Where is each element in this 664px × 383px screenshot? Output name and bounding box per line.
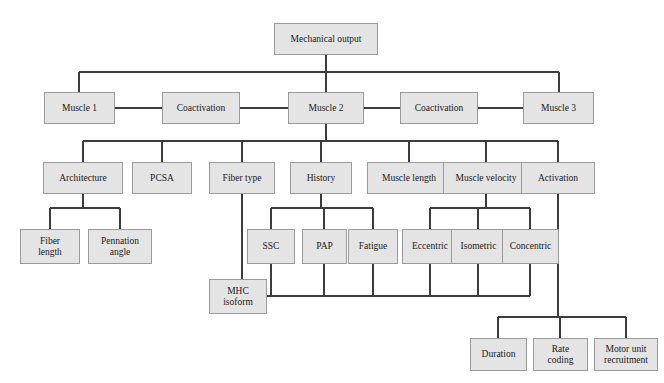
- node-label: Coactivation: [415, 103, 464, 114]
- node-fiber-length[interactable]: Fiberlength: [20, 229, 80, 264]
- node-label: SSC: [263, 241, 280, 252]
- node-muscle-length[interactable]: Muscle length: [367, 162, 451, 194]
- node-muscle-1[interactable]: Muscle 1: [44, 92, 115, 124]
- node-label: Fiber type: [223, 173, 262, 184]
- node-architecture[interactable]: Architecture: [43, 162, 123, 194]
- node-concentric[interactable]: Concentric: [502, 229, 559, 264]
- node-label: MHCisoform: [223, 286, 253, 308]
- node-motor-unit-recruitment[interactable]: Motor unitrecruitment: [594, 338, 658, 371]
- node-muscle-2[interactable]: Muscle 2: [288, 92, 364, 124]
- node-eccentric[interactable]: Eccentric: [402, 229, 458, 264]
- node-pennation-angle[interactable]: Pennationangle: [88, 229, 152, 264]
- node-label: History: [307, 173, 336, 184]
- node-label: Fatigue: [359, 241, 388, 252]
- node-label: Architecture: [59, 173, 106, 184]
- node-duration[interactable]: Duration: [470, 338, 527, 371]
- node-fiber-type[interactable]: Fiber type: [209, 162, 275, 194]
- node-coactivation-left[interactable]: Coactivation: [162, 92, 240, 124]
- node-isometric[interactable]: Isometric: [451, 229, 506, 264]
- node-label: PAP: [316, 241, 333, 252]
- node-label: Motor unitrecruitment: [604, 344, 648, 366]
- node-label: Muscle length: [382, 173, 436, 184]
- node-muscle-velocity[interactable]: Muscle velocity: [443, 162, 529, 194]
- node-label: Isometric: [461, 241, 497, 252]
- node-activation[interactable]: Activation: [521, 162, 595, 194]
- node-label: Muscle velocity: [456, 173, 517, 184]
- node-fatigue[interactable]: Fatigue: [348, 229, 398, 264]
- node-label: Eccentric: [412, 241, 448, 252]
- node-label: Fiberlength: [38, 236, 62, 258]
- node-rate-coding[interactable]: Ratecoding: [533, 338, 588, 371]
- node-label: Muscle 3: [541, 103, 576, 114]
- node-label: Activation: [538, 173, 578, 184]
- node-mhc-isoform[interactable]: MHCisoform: [209, 279, 267, 314]
- flowchart-canvas: Mechanical outputMuscle 1CoactivationMus…: [0, 0, 664, 383]
- node-label: Concentric: [510, 241, 552, 252]
- node-muscle-3[interactable]: Muscle 3: [523, 92, 594, 124]
- node-coactivation-right[interactable]: Coactivation: [400, 92, 478, 124]
- node-ssc[interactable]: SSC: [247, 229, 295, 264]
- node-mechanical-output[interactable]: Mechanical output: [274, 23, 378, 55]
- node-label: Coactivation: [177, 103, 226, 114]
- node-label: Duration: [482, 349, 516, 360]
- node-pap[interactable]: PAP: [302, 229, 347, 264]
- node-history[interactable]: History: [290, 162, 352, 194]
- node-label: Muscle 2: [308, 103, 343, 114]
- node-pcsa[interactable]: PCSA: [132, 162, 192, 194]
- node-label: Mechanical output: [291, 34, 362, 45]
- node-label: Muscle 1: [62, 103, 97, 114]
- node-label: Pennationangle: [101, 236, 139, 258]
- node-label: PCSA: [150, 173, 174, 184]
- node-label: Ratecoding: [548, 344, 574, 366]
